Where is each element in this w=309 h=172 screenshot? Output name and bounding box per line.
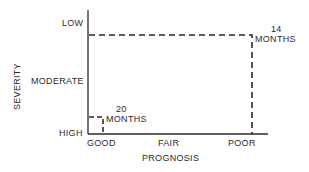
y-tick-high: HIGH xyxy=(59,128,83,138)
x-tick-poor: POOR xyxy=(228,138,256,148)
annotation-20-number: 20 xyxy=(116,104,127,114)
x-axis-label: PROGNOSIS xyxy=(142,153,199,163)
annotation-20-unit: MONTHS xyxy=(106,114,147,124)
x-tick-fair: FAIR xyxy=(158,138,179,148)
series-20-months xyxy=(89,117,103,134)
y-tick-moderate: MODERATE xyxy=(31,76,84,86)
chart-canvas xyxy=(0,0,309,172)
annotation-14-unit: MONTHS xyxy=(255,34,296,44)
y-tick-low: LOW xyxy=(62,18,83,28)
y-axis-label: SEVERITY xyxy=(12,64,22,110)
x-tick-good: GOOD xyxy=(87,138,116,148)
annotation-14-number: 14 xyxy=(271,24,282,34)
